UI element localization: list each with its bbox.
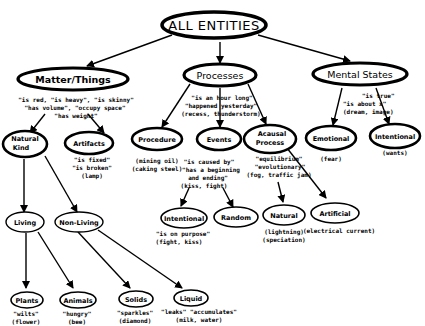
svg-text:"is caused by": "is caused by": [184, 158, 235, 166]
ontology-diagram: ALL ENTITIES Matter/Things Processes Men…: [0, 0, 425, 326]
edge-root-mental: [258, 35, 350, 61]
node-natural-kind[interactable]: Natural Kind: [3, 131, 47, 157]
svg-text:(mining oil): (mining oil): [135, 157, 178, 165]
annotation-processes: "is an hour long" "happened yesterday" (…: [181, 94, 260, 117]
node-liquid[interactable]: Liquid: [174, 290, 208, 306]
annotation-events: "is caused by" "has a beginning and endi…: [181, 158, 241, 190]
svg-text:"is red, "is heavy", "is skinn: "is red, "is heavy", "is skinny": [18, 96, 134, 104]
node-label: Random: [221, 214, 251, 222]
svg-text:(recess, thunderstorm): (recess, thunderstorm): [181, 110, 260, 117]
svg-text:(caking steel): (caking steel): [132, 165, 183, 173]
node-label-line2: Process: [256, 139, 285, 147]
svg-text:"is fixed": "is fixed": [74, 156, 110, 163]
node-label-line2: Kind: [13, 144, 30, 152]
edge-matter-naturalkind: [30, 114, 45, 133]
svg-text:(flower): (flower): [12, 318, 41, 325]
svg-text:(milk, water): (milk, water): [176, 316, 223, 323]
svg-text:(speciation): (speciation): [262, 236, 305, 244]
node-label: Animals: [63, 297, 92, 305]
edge-living-animals: [38, 232, 73, 288]
node-label-line1: Natural: [11, 135, 38, 143]
node-label: Intentional: [164, 215, 204, 223]
annotation-matter: "is red, "is heavy", "is skinny" "has vo…: [18, 96, 134, 120]
svg-text:(kiss, fight): (kiss, fight): [181, 182, 228, 190]
svg-text:(wants): (wants): [382, 149, 407, 156]
node-label: Mental States: [327, 69, 392, 80]
svg-text:(fear): (fear): [320, 155, 342, 162]
node-label: Natural: [270, 212, 297, 220]
svg-text:"wilts": "wilts": [13, 310, 38, 317]
node-procedure[interactable]: Procedure: [132, 128, 182, 150]
annotation-liquid: "leaks" "accumulates" (milk, water): [161, 308, 237, 323]
node-label: Processes: [197, 70, 244, 81]
svg-text:(dream, image): (dream, image): [343, 108, 394, 116]
node-label: Intentional: [375, 133, 415, 141]
node-label-line1: Acausal: [258, 130, 286, 138]
svg-text:(electrical current): (electrical current): [303, 227, 375, 234]
node-label: Artifacts: [73, 140, 105, 148]
node-matter-things[interactable]: Matter/Things: [18, 68, 128, 90]
edge-events-intentional: [181, 188, 189, 206]
node-label: Events: [207, 136, 232, 144]
node-label: Non-Living: [59, 219, 99, 227]
node-label: Emotional: [313, 135, 350, 143]
svg-text:(fog, traffic jam): (fog, traffic jam): [246, 171, 311, 179]
node-label: Solids: [125, 296, 147, 304]
node-label: Artificial: [319, 210, 350, 218]
svg-text:"equilibrium": "equilibrium": [256, 155, 303, 163]
node-intentional-event[interactable]: Intentional: [161, 208, 207, 228]
node-emotional[interactable]: Emotional: [306, 126, 356, 150]
annotation-artifacts: "is fixed" "is broken" (lamp): [72, 156, 112, 180]
edge-root-matter: [87, 35, 172, 66]
svg-text:"has volume", "occupy space": "has volume", "occupy space": [24, 104, 125, 112]
annotation-mental: "is true" "is about x" (dream, image): [343, 92, 395, 116]
svg-text:(diamond): (diamond): [119, 317, 152, 324]
annotation-acausal: "equilibrium" "evolutionary" (fog, traff…: [246, 155, 311, 179]
svg-text:(fight, kiss): (fight, kiss): [156, 238, 203, 246]
node-natural-process[interactable]: Natural: [263, 205, 305, 225]
svg-text:"is broken": "is broken": [72, 164, 112, 171]
svg-text:and ending": and ending": [188, 174, 228, 182]
annotation-plants: "wilts" (flower): [12, 310, 41, 325]
svg-text:(bee): (bee): [68, 318, 86, 325]
svg-text:(lightning): (lightning): [264, 228, 304, 236]
node-plants[interactable]: Plants: [11, 292, 43, 308]
svg-text:"is true": "is true": [362, 92, 395, 99]
annotation-animals: "hungry" (bee): [63, 310, 92, 325]
edge-events-random: [223, 188, 233, 207]
edge-nonliving-solids: [78, 232, 130, 288]
svg-text:"evolutionary": "evolutionary": [255, 163, 306, 171]
node-all-entities[interactable]: ALL ENTITIES: [162, 12, 266, 38]
svg-text:"is an hour long": "is an hour long": [191, 94, 252, 102]
node-events[interactable]: Events: [197, 128, 241, 150]
node-mental-states[interactable]: Mental States: [313, 63, 407, 85]
node-intentional-mental[interactable]: Intentional: [370, 124, 420, 148]
node-label: Procedure: [138, 136, 176, 144]
node-processes[interactable]: Processes: [184, 64, 256, 86]
annotation-emotional: (fear): [320, 155, 342, 162]
svg-text:"is about x": "is about x": [343, 100, 386, 107]
node-label: ALL ENTITIES: [168, 18, 259, 33]
node-acausal-process[interactable]: Acausal Process: [244, 125, 296, 153]
annotation-artificial: (electrical current): [303, 227, 375, 234]
node-random[interactable]: Random: [214, 207, 258, 227]
node-solids[interactable]: Solids: [119, 291, 153, 307]
node-label: Living: [14, 219, 36, 227]
node-animals[interactable]: Animals: [60, 292, 96, 308]
node-non-living[interactable]: Non-Living: [55, 212, 103, 232]
svg-text:"sparkles": "sparkles": [117, 309, 153, 317]
svg-text:"happened yesterday": "happened yesterday": [185, 102, 257, 110]
annotation-intentional-mental: (wants): [382, 149, 407, 156]
annotation-natural-process: (lightning) (speciation): [262, 228, 305, 244]
node-artificial[interactable]: Artificial: [311, 203, 359, 223]
node-living[interactable]: Living: [6, 212, 44, 232]
annotation-procedure: (mining oil) (caking steel): [132, 157, 183, 173]
node-label: Plants: [16, 297, 39, 305]
node-label: Liquid: [180, 295, 203, 303]
svg-text:"hungry": "hungry": [63, 310, 92, 318]
annotation-solids: "sparkles" (diamond): [117, 309, 153, 324]
edge-mental-emotional: [333, 88, 342, 125]
edge-acausal-natural: [278, 182, 283, 202]
svg-text:"has weight": "has weight": [54, 112, 97, 120]
node-artifacts[interactable]: Artifacts: [65, 132, 113, 154]
